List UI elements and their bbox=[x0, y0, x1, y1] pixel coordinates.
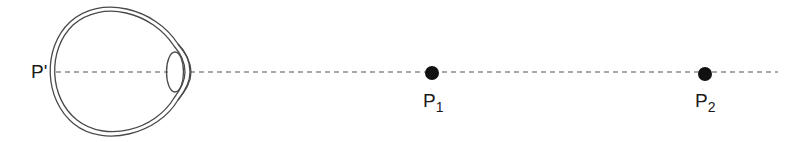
point-p2 bbox=[698, 67, 712, 81]
point-p2-subscript: 2 bbox=[708, 99, 716, 115]
point-p1 bbox=[425, 66, 439, 80]
diagram-canvas bbox=[0, 0, 809, 142]
eye-diagram: P' P1 P2 bbox=[0, 0, 809, 142]
point-p1-label: P1 bbox=[423, 91, 443, 114]
point-p1-subscript: 1 bbox=[436, 99, 444, 115]
point-p2-label: P2 bbox=[695, 91, 715, 114]
lens bbox=[167, 52, 184, 92]
image-point-label: P' bbox=[31, 62, 47, 81]
